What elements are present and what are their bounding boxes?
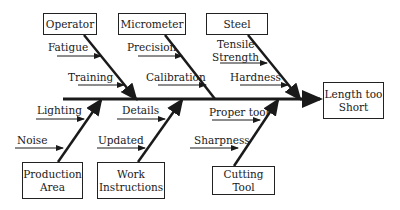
category-label-line2: Area	[40, 181, 65, 194]
category-label-line2: Instructions	[99, 181, 163, 194]
cause-tensile: Tensile	[217, 38, 254, 50]
category-label: Operator	[46, 18, 94, 31]
category-steel: Steel	[206, 13, 268, 35]
cause-training: Training	[68, 71, 113, 83]
cause-hardness: Hardness	[230, 71, 281, 83]
category-label-line1: Production	[23, 168, 81, 181]
cause-lighting: Lighting	[37, 104, 82, 116]
effect-line2: Short	[339, 101, 369, 114]
cause-updated: Updated	[98, 134, 144, 146]
category-label: Steel	[223, 18, 250, 31]
bone-steel	[248, 35, 300, 99]
cause-details: Details	[122, 104, 159, 116]
cause-calibration: Calibration	[146, 71, 206, 83]
cause-fatigue: Fatigue	[48, 41, 88, 53]
category-label-line1: Cutting	[223, 168, 263, 181]
category-label: Micrometer	[121, 18, 184, 31]
category-label-line2: Tool	[232, 181, 254, 194]
cause-proper-tool: Proper tool	[209, 106, 269, 118]
effect-line1: Length too	[325, 88, 383, 101]
category-production-area: Production Area	[22, 162, 83, 199]
category-operator: Operator	[43, 13, 97, 35]
category-micrometer: Micrometer	[118, 13, 186, 35]
category-cutting-tool: Cutting Tool	[212, 166, 275, 195]
effect-box: Length too Short	[323, 82, 384, 119]
cause-precision: Precision	[127, 41, 176, 53]
category-work-instructions: Work Instructions	[97, 162, 165, 199]
cause-sharpness: Sharpness	[194, 134, 250, 146]
category-label-line1: Work	[117, 168, 145, 181]
cause-noise: Noise	[17, 134, 47, 146]
cause-strength: Strength	[212, 51, 259, 63]
